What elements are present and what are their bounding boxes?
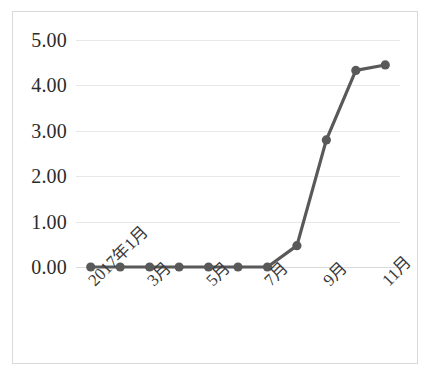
data-point [292,241,301,250]
x-axis-tick-labels: 2017年1月3月5月7月9月11月 [0,267,428,367]
y-axis-tick-label: 3.00 [31,121,67,141]
data-point [351,66,360,75]
y-axis-tick-label: 5.00 [31,30,67,50]
y-axis-tick-label: 1.00 [31,212,67,232]
data-point [322,135,331,144]
data-series [76,40,400,267]
line-chart: 0.001.002.003.004.005.00 2017年1月3月5月7月9月… [0,0,428,376]
y-axis-tick-labels: 0.001.002.003.004.005.00 [0,40,70,267]
y-axis-tick-label: 2.00 [31,166,67,186]
y-axis-tick-label: 4.00 [31,75,67,95]
data-point [381,60,390,69]
